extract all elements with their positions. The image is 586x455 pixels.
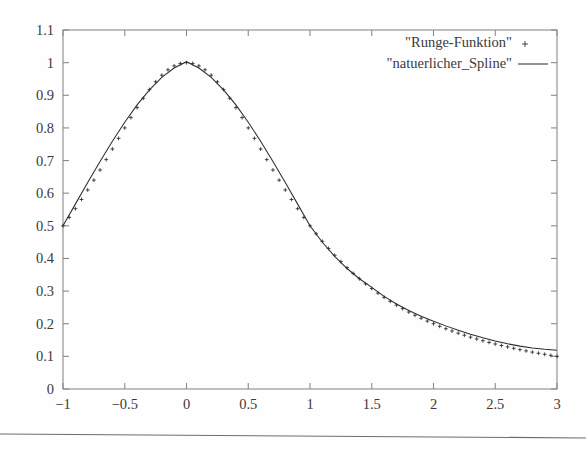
- spline-curve: [63, 62, 557, 351]
- y-tick-label: 0.2: [36, 316, 54, 332]
- x-tick-label: 1.5: [363, 396, 381, 412]
- y-tick-label: 0.7: [36, 153, 54, 169]
- x-tick-label: 0: [183, 396, 190, 412]
- chart-page: 00.10.20.30.40.50.60.70.80.911.1 −1−0.50…: [0, 0, 586, 455]
- chart-legend: "Runge-Funktion""natuerlicher_Spline": [387, 34, 548, 71]
- y-tick-label: 0.6: [36, 185, 54, 201]
- x-tick-label: −0.5: [112, 396, 138, 412]
- series-runge-funktion: [61, 61, 559, 359]
- y-tick-label: 0.9: [36, 87, 54, 103]
- y-tick-label: 0.3: [36, 283, 54, 299]
- legend-label: "natuerlicher_Spline": [387, 55, 512, 71]
- y-tick-label: 0.5: [36, 218, 54, 234]
- x-tick-label: 2: [430, 396, 437, 412]
- y-axis-tick-labels: 00.10.20.30.40.50.60.70.80.911.1: [36, 22, 55, 397]
- y-tick-label: 0.4: [36, 250, 55, 266]
- runge-spline-chart: 00.10.20.30.40.50.60.70.80.911.1 −1−0.50…: [0, 0, 586, 455]
- y-tick-label: 1: [47, 55, 54, 71]
- x-tick-label: 2.5: [486, 396, 504, 412]
- x-axis-tick-labels: −1−0.500.511.522.53: [55, 396, 560, 412]
- page-separator-rule: [0, 434, 586, 438]
- x-tick-label: 0.5: [239, 396, 257, 412]
- y-tick-label: 0.8: [36, 120, 54, 136]
- x-tick-label: 3: [553, 396, 560, 412]
- x-tick-label: 1: [306, 396, 313, 412]
- legend-label: "Runge-Funktion": [405, 34, 512, 50]
- axis-tickmarks: [63, 30, 557, 389]
- series-natuerlicher-spline: [63, 62, 557, 351]
- plot-frame: [63, 30, 557, 389]
- y-tick-label: 0: [47, 381, 54, 397]
- x-tick-label: −1: [55, 396, 70, 412]
- y-tick-label: 1.1: [36, 22, 54, 38]
- y-tick-label: 0.1: [36, 348, 54, 364]
